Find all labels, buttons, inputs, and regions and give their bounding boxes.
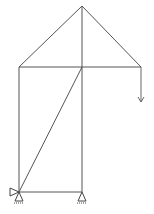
member-center-mid-bottom-left: [19, 67, 82, 192]
truss-members: [19, 6, 141, 192]
support-pin-vertical-icon: [78, 192, 86, 201]
member-apex-left-mid: [19, 6, 82, 67]
truss-svg: [0, 0, 154, 214]
truss-diagram: [0, 0, 154, 214]
member-apex-right-mid: [82, 6, 141, 67]
supports: [10, 188, 87, 203]
loads: [138, 67, 144, 102]
